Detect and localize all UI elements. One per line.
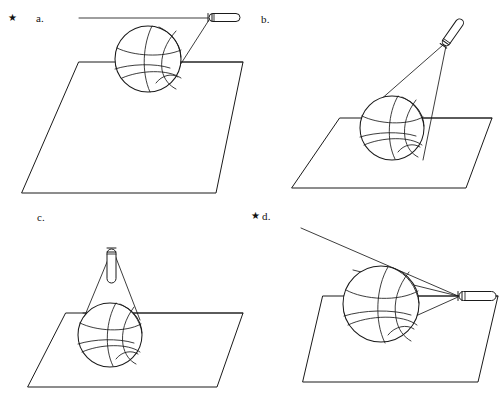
panel-a-drawing [22, 14, 243, 194]
panel-c-drawing [28, 248, 243, 387]
panel-d-star-icon: ★ [251, 211, 260, 221]
panel-a-flashlight [208, 14, 240, 22]
figure-drawing [0, 0, 501, 404]
panel-d-label: d. [262, 211, 271, 222]
panel-d-drawing [301, 228, 498, 382]
figure-container: ★ a. b. c. ★ d. [0, 0, 501, 404]
panel-d-ball [343, 266, 419, 343]
panel-b-ray-right [423, 46, 446, 160]
panel-a-star-icon: ★ [8, 13, 17, 23]
panel-a-ball [115, 26, 181, 92]
panel-d-flashlight [458, 292, 496, 301]
panel-a-label: a. [36, 13, 44, 24]
panel-b-drawing [292, 17, 492, 188]
panel-c-label: c. [37, 212, 45, 223]
panel-c-flashlight [107, 248, 116, 283]
panel-c-ball [78, 303, 142, 367]
panel-b-flashlight [440, 17, 465, 48]
panel-b-label: b. [261, 14, 270, 25]
panel-b-ball [360, 96, 424, 160]
